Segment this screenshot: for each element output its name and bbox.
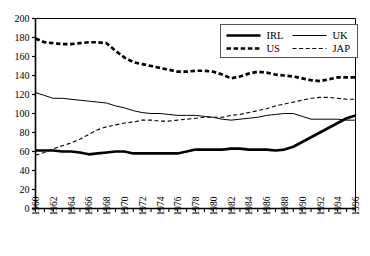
x-tick-label: 1992: [316, 196, 326, 215]
y-axis-ticks: 020406080100120140160180200: [15, 13, 36, 214]
x-tick-label: 1988: [280, 196, 290, 215]
line-chart: 020406080100120140160180200 196019621964…: [0, 0, 370, 256]
y-tick-label: 200: [15, 13, 30, 24]
x-tick-label: 1978: [191, 196, 201, 215]
x-tick-label: 1984: [244, 196, 254, 215]
y-tick-label: 120: [15, 89, 30, 100]
x-tick-label: 1968: [102, 196, 112, 215]
y-tick-label: 100: [15, 108, 30, 119]
legend-label-uk: UK: [333, 30, 349, 41]
x-tick-label: 1990: [298, 196, 308, 215]
x-tick-label: 1976: [173, 196, 183, 215]
chart-legend: IRLUKUSJAP: [221, 25, 358, 58]
y-tick-label: 180: [15, 32, 30, 43]
x-tick-label: 1962: [49, 196, 59, 215]
legend-label-us: US: [267, 43, 281, 54]
x-tick-label: 1994: [333, 196, 343, 215]
x-axis-ticks: 1960196219641966196819701972197419761978…: [31, 196, 361, 215]
y-tick-label: 60: [20, 146, 30, 157]
x-tick-label: 1972: [138, 196, 148, 215]
x-tick-label: 1966: [84, 196, 94, 215]
y-tick-label: 160: [15, 51, 30, 62]
x-tick-label: 1964: [67, 196, 77, 215]
series-line-uk: [36, 93, 356, 121]
x-tick-label: 1974: [156, 196, 166, 215]
x-tick-label: 1980: [209, 196, 219, 215]
y-tick-label: 0: [25, 203, 30, 214]
x-tick-label: 1960: [31, 196, 41, 215]
x-tick-label: 1982: [227, 196, 237, 215]
series-line-irl: [36, 115, 356, 154]
x-tick-label: 1986: [262, 196, 272, 215]
y-tick-label: 140: [15, 70, 30, 81]
legend-label-irl: IRL: [267, 30, 284, 41]
x-tick-label: 1970: [120, 196, 130, 215]
x-tick-label: 1996: [351, 196, 361, 215]
series-line-jap: [36, 97, 356, 155]
y-tick-label: 20: [20, 184, 30, 195]
y-tick-label: 40: [20, 165, 30, 176]
chart-container: 020406080100120140160180200 196019621964…: [0, 0, 370, 256]
y-tick-label: 80: [20, 127, 30, 138]
legend-label-jap: JAP: [333, 43, 351, 54]
